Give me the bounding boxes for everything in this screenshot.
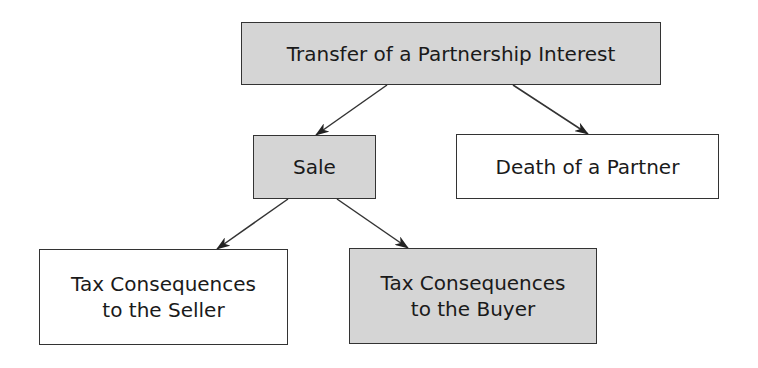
node-label-line1: Tax Consequences bbox=[71, 271, 256, 297]
node-label-line2: to the Buyer bbox=[411, 296, 535, 322]
node-death-of-a-partner: Death of a Partner bbox=[456, 134, 719, 199]
node-label-line2: to the Seller bbox=[102, 297, 224, 323]
node-label: Transfer of a Partnership Interest bbox=[287, 41, 616, 67]
node-label: Death of a Partner bbox=[496, 154, 680, 180]
arrow-root-to-death bbox=[513, 85, 588, 134]
node-tax-consequences-buyer: Tax Consequences to the Buyer bbox=[349, 248, 597, 344]
node-sale: Sale bbox=[253, 135, 376, 199]
node-label: Sale bbox=[293, 154, 336, 180]
arrow-sale-to-seller bbox=[217, 199, 288, 249]
node-label-line1: Tax Consequences bbox=[380, 270, 565, 296]
node-tax-consequences-seller: Tax Consequences to the Seller bbox=[39, 249, 288, 345]
arrow-root-to-sale bbox=[316, 85, 387, 135]
node-transfer-of-partnership-interest: Transfer of a Partnership Interest bbox=[241, 22, 661, 85]
arrow-sale-to-buyer bbox=[337, 199, 408, 248]
